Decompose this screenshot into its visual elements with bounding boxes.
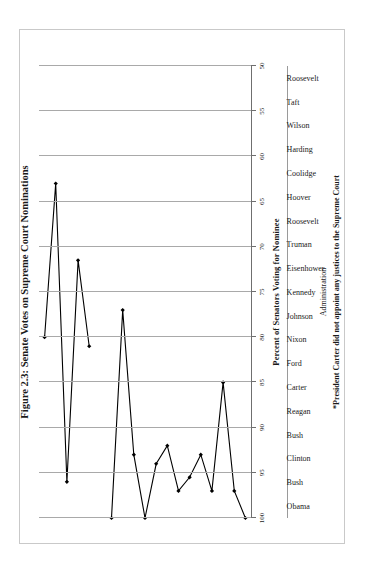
category-label-cell: Johnson [287, 304, 309, 328]
category-label: Taft [287, 91, 311, 112]
axis-tick-label: 100 [258, 506, 266, 530]
category-label: Roosevelt [287, 67, 311, 88]
gridline [39, 155, 251, 156]
category-label: Clinton [287, 448, 311, 469]
category-label-cell: Reagan [287, 399, 309, 423]
category-label-cell: Obama [287, 494, 309, 518]
axis-tick-label: 80 [258, 325, 266, 349]
axis-tick [251, 427, 256, 428]
data-point-marker [232, 489, 236, 493]
axis-tick-label: 70 [258, 235, 266, 259]
axis-tick [251, 201, 256, 202]
category-label: Harding [287, 139, 311, 160]
chart-stage: Figure 2.3: Senate Votes on Supreme Cour… [19, 29, 345, 544]
axis-tick-label: 75 [258, 280, 266, 304]
category-label-cell: Roosevelt [287, 209, 309, 233]
category-label: Eisenhower [287, 258, 311, 279]
data-point-marker [54, 181, 58, 185]
gridline [39, 472, 251, 473]
value-axis-line [251, 66, 252, 518]
axis-tick [251, 291, 256, 292]
axis-tick [251, 110, 256, 111]
axis-tick-label: 90 [258, 416, 266, 440]
figure-page: Figure 2.3: Senate Votes on Supreme Cour… [0, 0, 365, 573]
category-label-cell: Bush [287, 470, 309, 494]
axis-tick [251, 472, 256, 473]
axis-tick [251, 155, 256, 156]
axis-tick-label: 65 [258, 190, 266, 214]
data-point-marker [121, 308, 125, 312]
category-label: Kennedy [287, 282, 311, 303]
gridline [39, 291, 251, 292]
data-point-marker [210, 489, 214, 493]
gridline [39, 65, 251, 66]
data-point-marker [199, 453, 203, 457]
series-polyline [112, 310, 246, 518]
axis-tick-label: 95 [258, 461, 266, 485]
category-label-cell: Ford [287, 351, 309, 375]
axis-tick-label: 85 [258, 370, 266, 394]
axis-tick-label: 60 [258, 144, 266, 168]
category-label-cell: Wilson [287, 114, 309, 138]
category-label-cell: Roosevelt [287, 66, 309, 90]
category-label-cell: Eisenhower [287, 256, 309, 280]
data-point-marker [87, 344, 91, 348]
category-label: Nixon [287, 329, 311, 350]
category-label: Obama [287, 496, 311, 517]
category-label-cell: Coolidge [287, 161, 309, 185]
page-title: Figure 2.3: Senate Votes on Supreme Cour… [19, 66, 30, 518]
axis-tick-label: 55 [258, 99, 266, 123]
gridline [39, 201, 251, 202]
category-label-cell: Hoover [287, 185, 309, 209]
category-axis-labels: RooseveltTaftWilsonHardingCoolidgeHoover… [287, 66, 317, 518]
axis-tick-label: 50 [258, 54, 266, 78]
axis-tick [251, 381, 256, 382]
axis-tick [251, 246, 256, 247]
category-label: Ford [287, 353, 311, 374]
gridline [39, 110, 251, 111]
category-label-cell: Truman [287, 233, 309, 257]
category-label-cell: Bush [287, 423, 309, 447]
category-label-cell: Taft [287, 90, 309, 114]
category-label-cell: Kennedy [287, 280, 309, 304]
category-label: Carter [287, 377, 311, 398]
axis-tick [251, 65, 256, 66]
gridline [39, 336, 251, 337]
category-label: Coolidge [287, 163, 311, 184]
data-point-marker [65, 480, 69, 484]
category-label-cell: Harding [287, 137, 309, 161]
category-label: Bush [287, 424, 311, 445]
category-label: Bush [287, 472, 311, 493]
figure-footnote: *President Carter did not appoint any ju… [332, 66, 341, 518]
value-axis-title: Percent of Senators Voting for Nominee [271, 66, 281, 518]
category-label-cell: Carter [287, 375, 309, 399]
gridline [39, 246, 251, 247]
category-label-cell: Clinton [287, 447, 309, 471]
gridline [39, 381, 251, 382]
series-polyline [45, 184, 90, 482]
gridline [39, 427, 251, 428]
data-point-marker [132, 453, 136, 457]
axis-tick [251, 517, 256, 518]
category-label: Truman [287, 234, 311, 255]
category-label: Wilson [287, 115, 311, 136]
category-label: Roosevelt [287, 210, 311, 231]
plot-area [39, 66, 251, 518]
category-axis-title: Administration [319, 66, 328, 518]
category-label: Hoover [287, 186, 311, 207]
category-label: Johnson [287, 305, 311, 326]
data-point-marker [76, 258, 80, 262]
category-label-cell: Nixon [287, 328, 309, 352]
category-label: Reagan [287, 400, 311, 421]
gridline [39, 517, 251, 518]
axis-tick [251, 336, 256, 337]
series-line [39, 66, 251, 518]
